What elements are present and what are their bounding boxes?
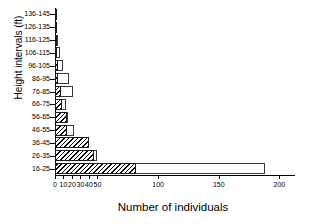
bar-hatched xyxy=(55,125,67,136)
y-tick xyxy=(50,27,55,28)
y-tick-label: 56-65 xyxy=(0,113,50,120)
x-tick-label: 100 xyxy=(146,181,170,188)
y-tick xyxy=(50,66,55,67)
bar-hatched xyxy=(55,99,62,110)
x-tick xyxy=(55,175,56,179)
bar-hatched xyxy=(55,9,57,20)
bar-hatched xyxy=(55,150,94,161)
x-tick xyxy=(63,175,64,179)
y-tick xyxy=(50,14,55,15)
y-tick-label: 126-135 xyxy=(0,23,50,30)
x-tick xyxy=(158,175,159,179)
y-tick-label: 36-45 xyxy=(0,138,50,145)
x-tick xyxy=(97,175,98,179)
y-tick xyxy=(50,104,55,105)
x-tick xyxy=(279,175,280,179)
y-tick-label: 136-145 xyxy=(0,10,50,17)
x-tick xyxy=(89,175,90,179)
x-tick xyxy=(72,175,73,179)
y-tick-label: 116-125 xyxy=(0,36,50,43)
y-tick xyxy=(50,92,55,93)
bar-hatched xyxy=(55,60,58,71)
y-tick xyxy=(50,169,55,170)
y-tick xyxy=(50,143,55,144)
y-tick xyxy=(50,53,55,54)
y-tick-label: 46-55 xyxy=(0,126,50,133)
bar-hatched xyxy=(55,137,89,148)
x-tick-label: 150 xyxy=(207,181,231,188)
bar-hatched xyxy=(55,73,58,84)
x-axis-title: Number of individuals xyxy=(48,201,298,213)
x-axis-line xyxy=(55,175,295,176)
y-tick-label: 86-95 xyxy=(0,74,50,81)
x-tick-label: 50 xyxy=(85,181,109,188)
bar-hatched xyxy=(55,112,67,123)
y-tick xyxy=(50,79,55,80)
bar-hatched xyxy=(55,35,57,46)
y-tick-label: 16-25 xyxy=(0,164,50,171)
bar-hatched xyxy=(55,163,136,174)
y-tick xyxy=(50,40,55,41)
y-tick-label: 106-115 xyxy=(0,48,50,55)
histogram-chart: Height intervals (ft) Number of individu… xyxy=(0,0,310,224)
bar-hatched xyxy=(55,47,57,58)
bar-hatched xyxy=(55,22,57,33)
y-tick-label: 26-35 xyxy=(0,151,50,158)
y-tick-label: 96-105 xyxy=(0,61,50,68)
y-tick xyxy=(50,117,55,118)
y-tick-label: 76-85 xyxy=(0,87,50,94)
y-tick xyxy=(50,156,55,157)
y-tick xyxy=(50,130,55,131)
x-tick xyxy=(80,175,81,179)
x-tick xyxy=(219,175,220,179)
y-tick-label: 66-75 xyxy=(0,100,50,107)
x-tick-label: 200 xyxy=(267,181,291,188)
bar-hatched xyxy=(55,86,61,97)
